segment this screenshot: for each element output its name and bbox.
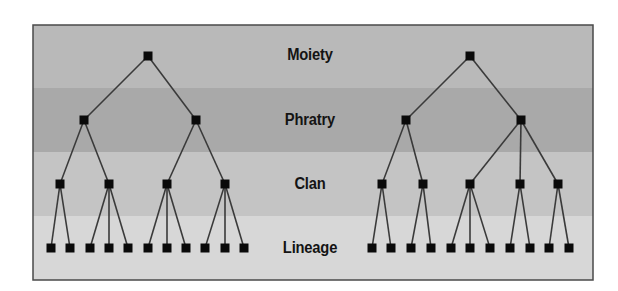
lineage-node	[407, 244, 416, 253]
clan-node	[56, 180, 65, 189]
clan-node	[378, 180, 387, 189]
phratry-node	[192, 116, 201, 125]
phratry-node	[402, 116, 411, 125]
lineage-node	[387, 244, 396, 253]
lineage-node	[144, 244, 153, 253]
lineage-node	[506, 244, 515, 253]
lineage-node	[182, 244, 191, 253]
lineage-node	[240, 244, 249, 253]
clan-node	[419, 180, 428, 189]
level-label-phratry: Phratry	[255, 110, 365, 130]
clan-node	[516, 180, 525, 189]
clan-node	[105, 180, 114, 189]
clan-node	[163, 180, 172, 189]
clan-node	[466, 180, 475, 189]
lineage-node	[486, 244, 495, 253]
level-label-moiety: Moiety	[255, 45, 365, 65]
lineage-node	[526, 244, 535, 253]
kinship-hierarchy-diagram: Moiety Phratry Clan Lineage	[0, 0, 618, 291]
phratry-node	[80, 116, 89, 125]
lineage-node	[201, 244, 210, 253]
lineage-node	[163, 244, 172, 253]
lineage-node	[368, 244, 377, 253]
lineage-node	[545, 244, 554, 253]
clan-node	[221, 180, 230, 189]
lineage-node	[66, 244, 75, 253]
tree-edge	[520, 120, 521, 184]
level-label-clan: Clan	[255, 174, 365, 194]
phratry-node	[517, 116, 526, 125]
lineage-node	[105, 244, 114, 253]
lineage-node	[565, 244, 574, 253]
lineage-node	[447, 244, 456, 253]
lineage-node	[86, 244, 95, 253]
lineage-node	[427, 244, 436, 253]
level-label-lineage: Lineage	[255, 238, 365, 258]
moiety-node	[466, 52, 475, 61]
moiety-node	[144, 52, 153, 61]
lineage-node	[124, 244, 133, 253]
lineage-node	[466, 244, 475, 253]
lineage-node	[47, 244, 56, 253]
clan-node	[554, 180, 563, 189]
lineage-node	[221, 244, 230, 253]
